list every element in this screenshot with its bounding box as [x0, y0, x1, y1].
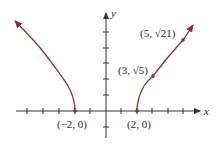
graph-figure: x y (−2, 0) (2, 0) (3, √5) (5, √21): [0, 0, 222, 145]
y-axis-label: y: [110, 7, 116, 19]
label-3-sqrt5: (3, √5): [118, 64, 148, 77]
left-branch-curve: [15, 21, 75, 111]
point-2-0: [135, 109, 139, 113]
point-5-sqrt21: [181, 38, 185, 42]
graph-canvas: x y (−2, 0) (2, 0) (3, √5) (5, √21): [0, 0, 222, 145]
x-axis-label: x: [203, 105, 209, 117]
point-3-sqrt5: [151, 74, 155, 78]
label-neg2-0: (−2, 0): [57, 118, 87, 131]
label-5-sqrt21: (5, √21): [140, 27, 176, 40]
label-2-0: (2, 0): [127, 118, 151, 131]
point-neg2-0: [73, 109, 77, 113]
